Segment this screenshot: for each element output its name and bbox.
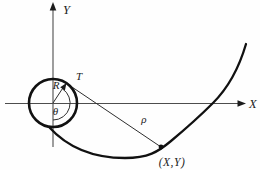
involute-curve — [49, 44, 246, 158]
y-axis-label: Y — [63, 3, 72, 17]
theta-angle-label: θ — [53, 105, 59, 117]
y-axis-arrowhead-icon — [50, 2, 57, 11]
rho-length-label: ρ — [140, 113, 146, 125]
curve-point-label: (X,Y) — [159, 156, 185, 169]
tangent-point-label: T — [76, 70, 83, 82]
curve-point-dot — [159, 145, 164, 150]
curve-diagram: Y X T R θ ρ (X,Y) — [0, 0, 260, 170]
x-axis-arrowhead-icon — [238, 100, 247, 107]
rho-tangent-line — [66, 83, 161, 147]
radius-label: R — [52, 79, 60, 91]
diagram-canvas: Y X T R θ ρ (X,Y) — [0, 0, 260, 170]
radius-arrowhead-icon — [60, 83, 66, 90]
x-axis-label: X — [248, 97, 258, 111]
